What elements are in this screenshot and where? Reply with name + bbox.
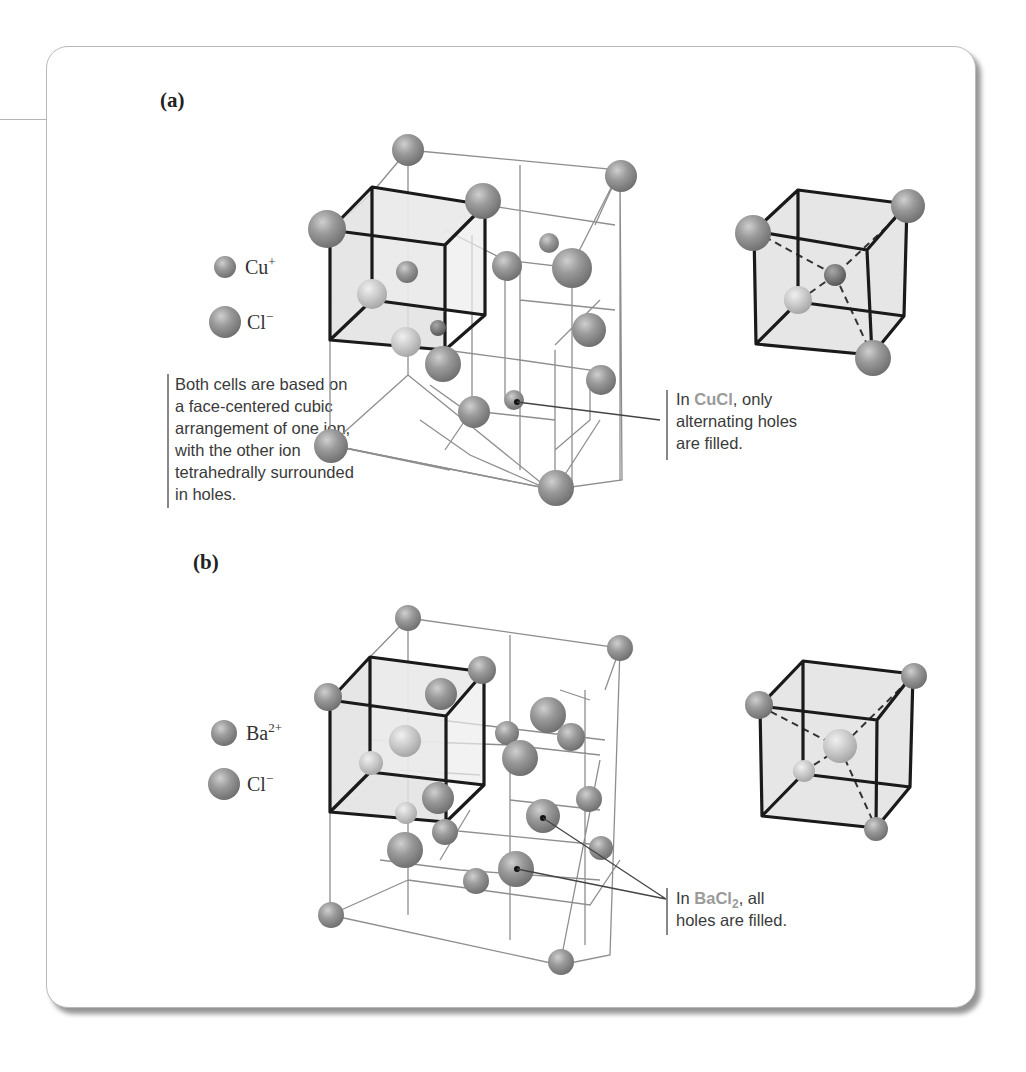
callout-bacl2-line1: In BaCl2, all [676, 889, 764, 911]
panel-b: (b) Ba2+ Cl− [193, 550, 927, 975]
callout-cucl-line1: In CuCl, only [676, 390, 773, 408]
legend-a: Cu+ Cl− [209, 254, 276, 338]
cucl-lattice [308, 134, 660, 506]
bacl2-lattice [314, 605, 666, 975]
panel-b-label: (b) [193, 550, 219, 574]
side-note-line: Both cells are based on [175, 375, 347, 393]
cl-ion-legend-sphere-b [208, 768, 240, 800]
panel-a: (a) Cu+ Cl− Both cells are based on a fa… [160, 88, 925, 508]
side-note-line: in holes. [175, 485, 236, 503]
legend-cl-label: Cl− [247, 309, 273, 333]
ba-ion-legend-sphere [211, 720, 237, 746]
callout-cucl-line2: alternating holes [676, 412, 797, 430]
crystal-diagram: (a) Cu+ Cl− Both cells are based on a fa… [0, 0, 1026, 1072]
callout-bacl2-line2: holes are filled. [676, 911, 787, 929]
cucl-unit-cell [735, 189, 925, 376]
side-note-line: with the other ion [174, 441, 301, 459]
side-note-line: tetrahedrally surrounded [175, 463, 354, 481]
panel-a-label: (a) [160, 88, 185, 112]
callout-cucl: In CuCl, only alternating holes are fill… [667, 390, 797, 460]
legend-b: Ba2+ Cl− [208, 720, 282, 800]
cl-ion-legend-sphere [209, 306, 241, 338]
legend-ba-label: Ba2+ [246, 720, 282, 744]
legend-cu-label: Cu+ [245, 254, 276, 278]
callout-cucl-line3: are filled. [676, 434, 743, 452]
cu-ion-legend-sphere [214, 256, 236, 278]
side-note-line: a face-centered cubic [175, 397, 333, 415]
callout-bacl2: In BaCl2, all holes are filled. [667, 888, 787, 935]
legend-cl-label-b: Cl− [247, 771, 273, 795]
bacl2-unit-cell [745, 661, 927, 841]
